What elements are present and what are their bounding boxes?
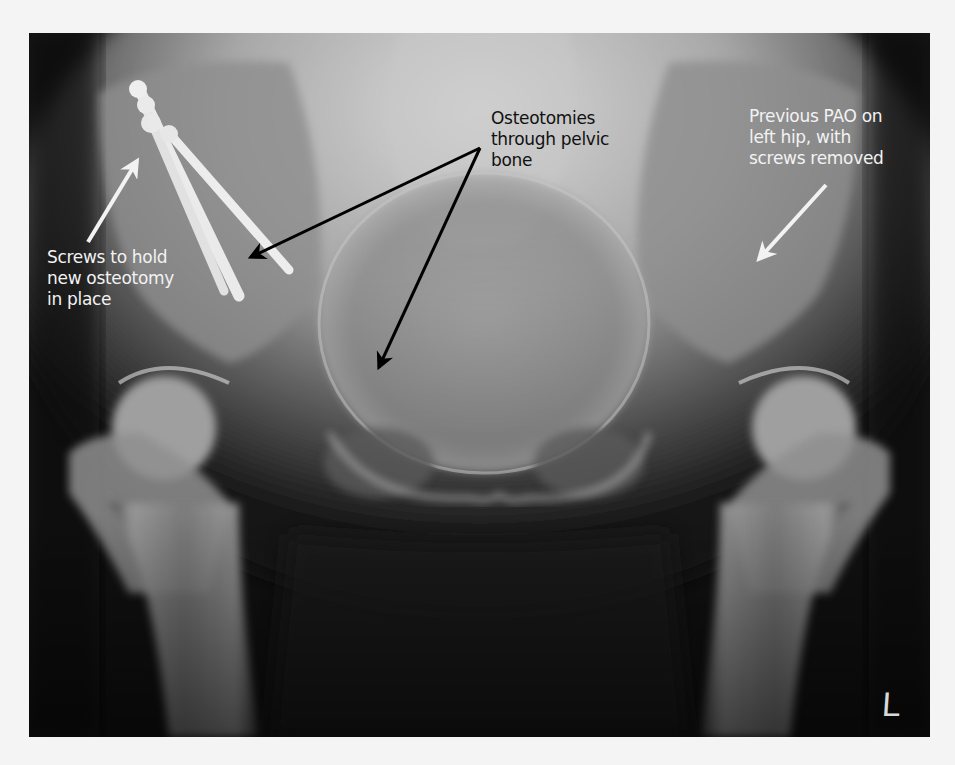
xray-figure: Screws to hold new osteotomy in place Os… <box>29 33 930 737</box>
side-marker-left: L <box>881 687 902 721</box>
screws-label: Screws to hold new osteotomy in place <box>47 247 174 310</box>
previous-pao-label: Previous PAO on left hip, with screws re… <box>749 106 884 169</box>
osteotomies-label: Osteotomies through pelvic bone <box>491 108 609 171</box>
